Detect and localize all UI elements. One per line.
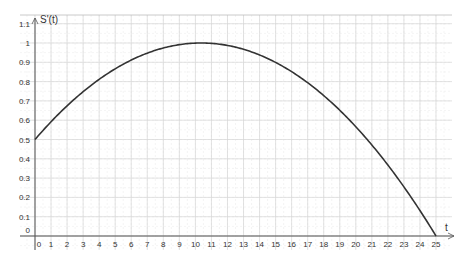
x-tick-label: 9 — [177, 240, 182, 249]
y-tick-label: 0.7 — [19, 97, 31, 106]
chart-canvas: 0123456789101112131415161718192021222324… — [0, 0, 470, 261]
y-tick-label: 1 — [26, 39, 31, 48]
x-tick-label: 4 — [97, 240, 102, 249]
minor-grid — [20, 15, 452, 250]
y-tick-label: 1.1 — [19, 20, 31, 29]
y-axis-label: S'(t) — [40, 14, 58, 25]
y-tick-label: 0.1 — [19, 213, 31, 222]
x-tick-label: 19 — [335, 240, 344, 249]
x-tick-label: 11 — [207, 240, 216, 249]
x-tick-label: 13 — [239, 240, 248, 249]
x-tick-label: 8 — [161, 240, 166, 249]
x-tick-label: 6 — [129, 240, 134, 249]
x-tick-label: 21 — [367, 240, 376, 249]
y-tick-label: 0.9 — [19, 58, 31, 67]
x-tick-label: 0 — [37, 240, 42, 249]
x-tick-label: 3 — [81, 240, 86, 249]
x-tick-label: 18 — [319, 240, 328, 249]
x-tick-label: 25 — [432, 240, 441, 249]
x-tick-label: 20 — [351, 240, 360, 249]
x-tick-label: 2 — [65, 240, 70, 249]
x-tick-label: 5 — [113, 240, 118, 249]
x-tick-label: 15 — [271, 240, 280, 249]
x-axis-tick-labels: 0123456789101112131415161718192021222324… — [37, 240, 441, 249]
y-tick-label: 0 — [26, 226, 31, 235]
x-axis-label: t — [445, 222, 448, 233]
y-tick-label: 0.5 — [19, 136, 31, 145]
x-tick-label: 16 — [287, 240, 296, 249]
y-tick-label: 0.8 — [19, 78, 31, 87]
x-tick-label: 22 — [383, 240, 392, 249]
x-tick-label: 17 — [303, 240, 312, 249]
y-axis-tick-labels: 00.10.20.30.40.50.60.70.80.911.1 — [19, 20, 31, 235]
x-tick-label: 14 — [255, 240, 264, 249]
x-tick-label: 10 — [191, 240, 200, 249]
x-tick-label: 24 — [416, 240, 425, 249]
x-tick-label: 1 — [49, 240, 54, 249]
y-tick-label: 0.2 — [19, 193, 31, 202]
y-tick-label: 0.6 — [19, 116, 31, 125]
x-tick-label: 12 — [223, 240, 232, 249]
major-grid — [20, 15, 452, 250]
y-tick-label: 0.3 — [19, 174, 31, 183]
x-tick-label: 7 — [145, 240, 150, 249]
x-tick-label: 23 — [399, 240, 408, 249]
y-tick-label: 0.4 — [19, 155, 31, 164]
